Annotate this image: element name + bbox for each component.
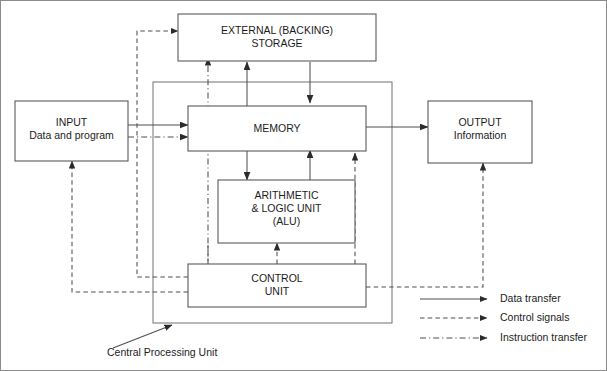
- computer-architecture-diagram: EXTERNAL (BACKING) STORAGE INPUT Data an…: [0, 0, 607, 371]
- legend-item-control-signals: Control signals: [420, 311, 569, 323]
- output-label-line2: Information: [454, 129, 507, 141]
- box-external-storage: EXTERNAL (BACKING) STORAGE: [178, 14, 376, 61]
- line-control-to-external-storage: [137, 31, 188, 277]
- external-storage-label-line2: STORAGE: [251, 37, 302, 49]
- box-alu: ARITHMETIC & LOGIC UNIT (ALU): [218, 180, 355, 243]
- line-control-to-output: [366, 163, 483, 287]
- box-output: OUTPUT Information: [428, 101, 532, 163]
- external-storage-label-line1: EXTERNAL (BACKING): [221, 24, 333, 36]
- input-label-line1: INPUT: [56, 116, 88, 128]
- legend: Data transfer Control signals Instructio…: [420, 292, 587, 343]
- alu-label-line1: ARITHMETIC: [254, 189, 319, 201]
- diagram-canvas: EXTERNAL (BACKING) STORAGE INPUT Data an…: [0, 0, 607, 371]
- alu-label-line3: (ALU): [273, 215, 300, 227]
- legend-label-control-signals: Control signals: [500, 311, 569, 323]
- control-unit-label-line1: CONTROL: [251, 272, 302, 284]
- box-control-unit: CONTROL UNIT: [188, 264, 366, 307]
- cpu-caption-label: Central Processing Unit: [107, 346, 217, 358]
- line-control-to-input: [72, 161, 188, 292]
- box-input: INPUT Data and program: [15, 101, 128, 161]
- line-cpu-caption-pointer: [113, 325, 172, 348]
- legend-item-instruction-transfer: Instruction transfer: [420, 331, 587, 343]
- legend-item-data-transfer: Data transfer: [420, 292, 561, 304]
- input-label-line2: Data and program: [29, 129, 114, 141]
- output-label-line1: OUTPUT: [458, 116, 502, 128]
- box-memory: MEMORY: [188, 106, 366, 151]
- alu-label-line2: & LOGIC UNIT: [251, 202, 322, 214]
- legend-label-instruction-transfer: Instruction transfer: [500, 331, 587, 343]
- legend-label-data-transfer: Data transfer: [500, 292, 561, 304]
- control-unit-label-line2: UNIT: [265, 285, 290, 297]
- memory-label: MEMORY: [253, 122, 300, 134]
